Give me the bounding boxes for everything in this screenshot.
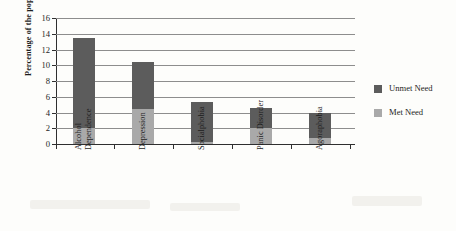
y-tick [52,81,56,82]
y-tick-label: 6 [30,93,50,102]
gridline [56,81,355,82]
y-tick-label: 12 [30,46,50,55]
x-category-line: Depression [138,112,148,150]
x-category-label-agoraphobia: Agoraphobia [315,106,325,150]
y-tick-label: 8 [30,77,50,86]
x-category-line: Dependence [84,109,94,150]
x-tick [114,144,115,149]
x-category-line: Panic Disorder [256,100,266,150]
y-tick-label: 14 [30,30,50,39]
y-tick-label: 0 [30,140,50,149]
x-category-label-depression: Depression [138,112,148,150]
y-tick-label: 16 [30,14,50,23]
x-tick [56,144,57,149]
gridline [56,50,355,51]
legend-swatch-unmet-need [374,85,382,93]
y-tick [52,50,56,51]
scan-artifact [30,200,150,209]
legend-swatch-met-need [374,109,382,117]
x-category-line: Alcohol [74,109,84,150]
gridline [56,18,355,19]
scan-artifact [170,203,240,211]
chart-figure: Percentage of the population 16 14 12 10… [0,0,456,231]
legend-label-unmet-need: Unmet Need [389,84,433,93]
x-category-label-alcohol-dependence: Alcohol Dependence [74,109,94,150]
y-tick [52,128,56,129]
x-tick [173,144,174,149]
gridline [56,65,355,66]
y-tick [52,113,56,114]
y-tick [52,97,56,98]
y-tick-label: 2 [30,124,50,133]
scan-artifact [352,196,422,206]
y-tick [52,65,56,66]
y-tick [52,34,56,35]
legend-label-met-need: Met Need [389,108,423,117]
y-tick [52,18,56,19]
x-tick [291,144,292,149]
x-category-line: Agoraphobia [315,106,325,150]
gridline [56,34,355,35]
x-category-line: Socialphobia [197,106,207,150]
x-category-label-panic-disorder: Panic Disorder [256,100,266,150]
bar-segment-unmet-need [132,62,154,109]
y-tick-label: 4 [30,109,50,118]
gridline [56,97,355,98]
x-tick [350,144,351,149]
x-category-label-socialphobia: Socialphobia [197,106,207,150]
y-tick-label: 10 [30,61,50,70]
x-tick [232,144,233,149]
